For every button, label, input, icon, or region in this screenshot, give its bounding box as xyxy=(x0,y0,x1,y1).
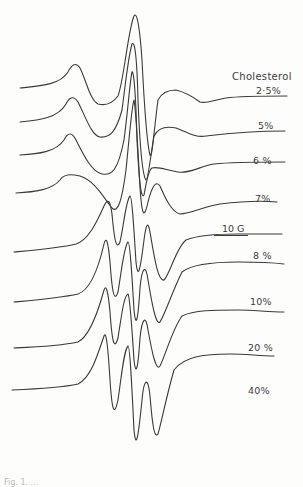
legend-title: Cholesterol xyxy=(232,71,292,82)
scale-bar-label: 10 G xyxy=(222,223,244,234)
esr-spectra-figure: Cholesterol 2·5% 5% 6 % 7% 10 G 8 % 10% … xyxy=(0,0,303,487)
series-label-7: 7% xyxy=(255,193,270,204)
scale-bar xyxy=(214,235,248,236)
spectrum-trace-5pct xyxy=(20,43,285,180)
series-label-10: 10% xyxy=(250,296,272,307)
spectrum-trace-20pct xyxy=(14,288,284,369)
spectrum-trace-6pct xyxy=(20,72,285,196)
series-label-20: 20 % xyxy=(248,342,273,353)
spectrum-trace-40pct xyxy=(12,335,274,440)
figure-caption-fragment: Fig. 1. ... xyxy=(4,478,38,487)
series-label-6: 6 % xyxy=(253,155,272,166)
series-label-40: 40% xyxy=(248,385,270,396)
series-label-8: 8 % xyxy=(253,250,272,261)
spectrum-trace-2-5pct xyxy=(20,15,287,156)
spectrum-trace-8pct xyxy=(14,196,282,280)
series-label-5: 5% xyxy=(258,120,273,131)
series-label-2-5: 2·5% xyxy=(256,85,281,96)
spectrum-trace-7pct xyxy=(16,100,277,214)
